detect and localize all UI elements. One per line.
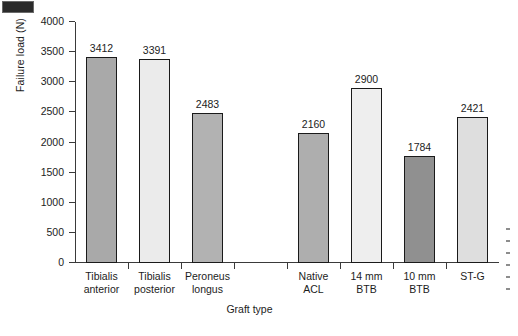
y-tick-label: 2500 <box>41 105 64 117</box>
x-tick <box>340 263 341 269</box>
y-tick: 2000 <box>69 142 75 143</box>
bar: 3412 <box>86 57 118 263</box>
y-tick-label: 2000 <box>41 136 64 148</box>
caption-text-fragment <box>506 252 510 254</box>
x-category-label-line: 10 mm <box>393 270 446 283</box>
bar-value-label: 3412 <box>90 42 113 54</box>
y-tick: 1500 <box>69 172 75 173</box>
x-category-label: ST-G <box>446 270 499 283</box>
y-tick: 1000 <box>69 202 75 203</box>
x-category-label-line: anterior <box>75 283 128 296</box>
bar: 1784 <box>404 156 436 263</box>
x-category-label: Peroneuslongus <box>181 270 234 296</box>
x-tick <box>446 263 447 269</box>
y-tick-label: 3500 <box>41 45 64 57</box>
bar: 2483 <box>192 113 224 263</box>
y-tick-label: 1500 <box>41 166 64 178</box>
x-category-label: 14 mmBTB <box>340 270 393 296</box>
y-tick: 3000 <box>69 81 75 82</box>
bar-value-label: 3391 <box>143 44 166 56</box>
x-category-label-line: ACL <box>287 283 340 296</box>
caption-text-fragment <box>506 240 510 242</box>
x-axis-title: Graft type <box>0 303 499 315</box>
cut-off-caption-sliver <box>506 228 516 328</box>
x-category-label: Tibialisposterior <box>128 270 181 296</box>
y-axis-title: Failure load (N) <box>14 18 26 92</box>
x-category-label-line: Peroneus <box>181 270 234 283</box>
bar-value-label: 1784 <box>408 141 431 153</box>
y-tick-label: 1000 <box>41 196 64 208</box>
caption-text-fragment <box>506 264 510 266</box>
x-tick <box>393 263 394 269</box>
bar: 2421 <box>457 117 489 263</box>
y-tick-label: 3000 <box>41 75 64 87</box>
caption-text-fragment <box>506 228 510 230</box>
x-tick <box>128 263 129 269</box>
x-category-label-line: posterior <box>128 283 181 296</box>
x-category-label-line: ST-G <box>446 270 499 283</box>
y-tick-label: 500 <box>46 226 64 238</box>
y-tick: 0 <box>69 262 75 263</box>
caption-text-fragment <box>506 288 510 290</box>
figure-bar-chart-failure-load: Failure load (N) 05001000150020002500300… <box>0 0 518 336</box>
y-tick: 500 <box>69 232 75 233</box>
x-tick <box>181 263 182 269</box>
bar: 2160 <box>298 133 330 263</box>
x-category-label-line: 14 mm <box>340 270 393 283</box>
x-category-label-line: longus <box>181 283 234 296</box>
plot-area: 05001000150020002500300035004000 3412339… <box>75 22 499 263</box>
x-category-label-line: BTB <box>340 283 393 296</box>
x-category-label-line: Native <box>287 270 340 283</box>
y-axis-line <box>75 22 76 263</box>
x-category-label: Tibialisanterior <box>75 270 128 296</box>
x-category-label-line: BTB <box>393 283 446 296</box>
bar-value-label: 2421 <box>461 102 484 114</box>
x-category-label: NativeACL <box>287 270 340 296</box>
bar: 2900 <box>351 88 383 263</box>
y-tick: 3500 <box>69 51 75 52</box>
x-tick <box>234 263 235 269</box>
x-category-label-line: Tibialis <box>128 270 181 283</box>
x-category-label-line: Tibialis <box>75 270 128 283</box>
y-tick-label: 4000 <box>41 15 64 27</box>
bar: 3391 <box>139 59 171 263</box>
x-category-label: 10 mmBTB <box>393 270 446 296</box>
bar-value-label: 2160 <box>302 118 325 130</box>
y-tick: 4000 <box>69 21 75 22</box>
bar-value-label: 2483 <box>196 98 219 110</box>
y-tick-label: 0 <box>58 256 64 268</box>
caption-text-fragment <box>506 276 510 278</box>
y-tick: 2500 <box>69 111 75 112</box>
x-tick <box>287 263 288 269</box>
page-corner-mark <box>2 1 34 13</box>
bar-value-label: 2900 <box>355 73 378 85</box>
